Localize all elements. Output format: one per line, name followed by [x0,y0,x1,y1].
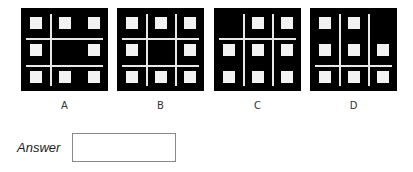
white-square [59,71,71,83]
option-label-a: A [21,100,108,111]
white-square [252,44,264,56]
white-square [252,17,264,29]
white-square [126,44,138,56]
answer-input[interactable] [72,133,176,162]
white-square [319,44,331,56]
option-panel-a[interactable] [21,8,108,91]
option-label-d: D [310,100,397,111]
white-square [281,44,293,56]
option-panel-b[interactable] [117,8,204,91]
white-square [281,71,293,83]
white-square [184,71,196,83]
white-square [377,71,389,83]
option-label-c: C [214,100,301,111]
white-square [88,44,100,56]
horizontal-line [219,38,296,40]
white-square [319,17,331,29]
white-square [223,44,235,56]
vertical-line [50,14,52,86]
white-square [281,17,293,29]
option-panel-d[interactable] [310,8,397,91]
white-square [319,71,331,83]
white-square [30,44,42,56]
horizontal-line [315,65,392,67]
horizontal-line [26,38,103,40]
white-square [184,17,196,29]
horizontal-line [122,38,199,40]
white-square [88,71,100,83]
horizontal-line [122,65,199,67]
white-square [348,17,360,29]
white-square [184,44,196,56]
white-square [348,44,360,56]
vertical-line [339,14,341,86]
white-square [30,17,42,29]
white-square [155,17,167,29]
vertical-line [272,14,274,86]
option-panel-c[interactable] [214,8,301,91]
white-square [155,71,167,83]
white-square [348,71,360,83]
vertical-line [146,14,148,86]
white-square [126,17,138,29]
vertical-line [243,14,245,86]
answer-label: Answer [17,140,60,155]
white-square [223,71,235,83]
white-square [252,71,264,83]
white-square [377,44,389,56]
white-square [59,17,71,29]
white-square [126,71,138,83]
option-label-b: B [117,100,204,111]
vertical-line [368,14,370,86]
white-square [88,17,100,29]
white-square [30,71,42,83]
horizontal-line [26,65,103,67]
vertical-line [175,14,177,86]
